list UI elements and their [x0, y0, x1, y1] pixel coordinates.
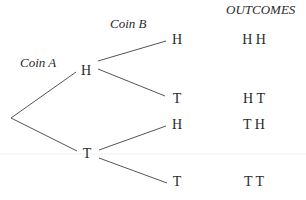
- edge-h-to-h: [98, 41, 166, 61]
- coin-b-header: Coin B: [110, 16, 147, 31]
- node-b-ht: T: [173, 91, 182, 106]
- edge-t-to-h: [99, 126, 166, 150]
- outcomes-header: OUTCOMES: [226, 2, 296, 17]
- outcome-th: T H: [243, 117, 265, 132]
- outcome-ht: H T: [243, 91, 265, 106]
- node-b-tt: T: [173, 174, 182, 189]
- outcome-hh: H H: [242, 32, 266, 47]
- node-b-th: H: [172, 117, 182, 132]
- edge-t-to-t: [99, 158, 167, 183]
- edge-root-to-h: [11, 72, 76, 118]
- tree-diagram: Coin A Coin B OUTCOMES H T H T H T H H H…: [0, 0, 306, 200]
- outcome-tt: T T: [244, 174, 265, 189]
- edge-h-to-t: [98, 69, 165, 96]
- node-a-t: T: [83, 146, 92, 161]
- node-b-hh: H: [172, 32, 182, 47]
- edge-root-to-t: [11, 118, 77, 151]
- node-a-h: H: [81, 63, 91, 78]
- coin-a-header: Coin A: [20, 55, 56, 70]
